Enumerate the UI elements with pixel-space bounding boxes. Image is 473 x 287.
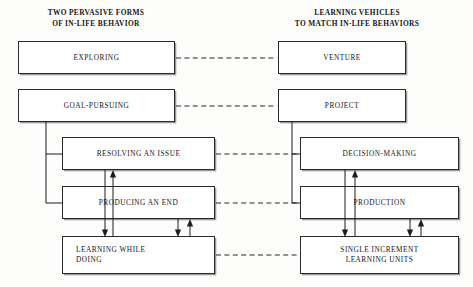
branch-project-to-decisionmaking: [292, 122, 300, 154]
arrow-resolving-to-learning-head: [102, 230, 108, 237]
branch-goalpursuing-to-producing: [46, 154, 62, 203]
arrow-learning-to-producing-head: [187, 219, 193, 226]
arrow-producing-to-learning-head: [175, 230, 181, 237]
diagram-canvas: TWO PERVASIVE FORMS OF IN-LIFE BEHAVIOR …: [0, 0, 473, 287]
branch-goalpursuing-to-resolving: [46, 122, 62, 154]
arrow-production-to-singleincrement-head: [407, 230, 413, 237]
arrow-learning-to-resolving-head: [110, 170, 116, 177]
arrow-singleincrement-to-production-head: [418, 219, 424, 226]
arrow-decisionmaking-to-singleincrement-head: [342, 230, 348, 237]
arrow-singleincrement-to-decisionmaking-head: [352, 170, 358, 177]
branch-project-to-production: [292, 154, 300, 203]
connector-layer: [0, 0, 473, 287]
